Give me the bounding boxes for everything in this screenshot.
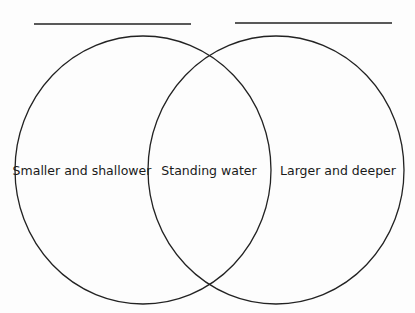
left-region-label: Smaller and shallower bbox=[13, 163, 152, 178]
venn-shapes bbox=[0, 0, 415, 313]
overlap-region-label: Standing water bbox=[161, 163, 256, 178]
venn-diagram: Smaller and shallower Standing water Lar… bbox=[0, 0, 415, 313]
right-region-label: Larger and deeper bbox=[280, 163, 396, 178]
